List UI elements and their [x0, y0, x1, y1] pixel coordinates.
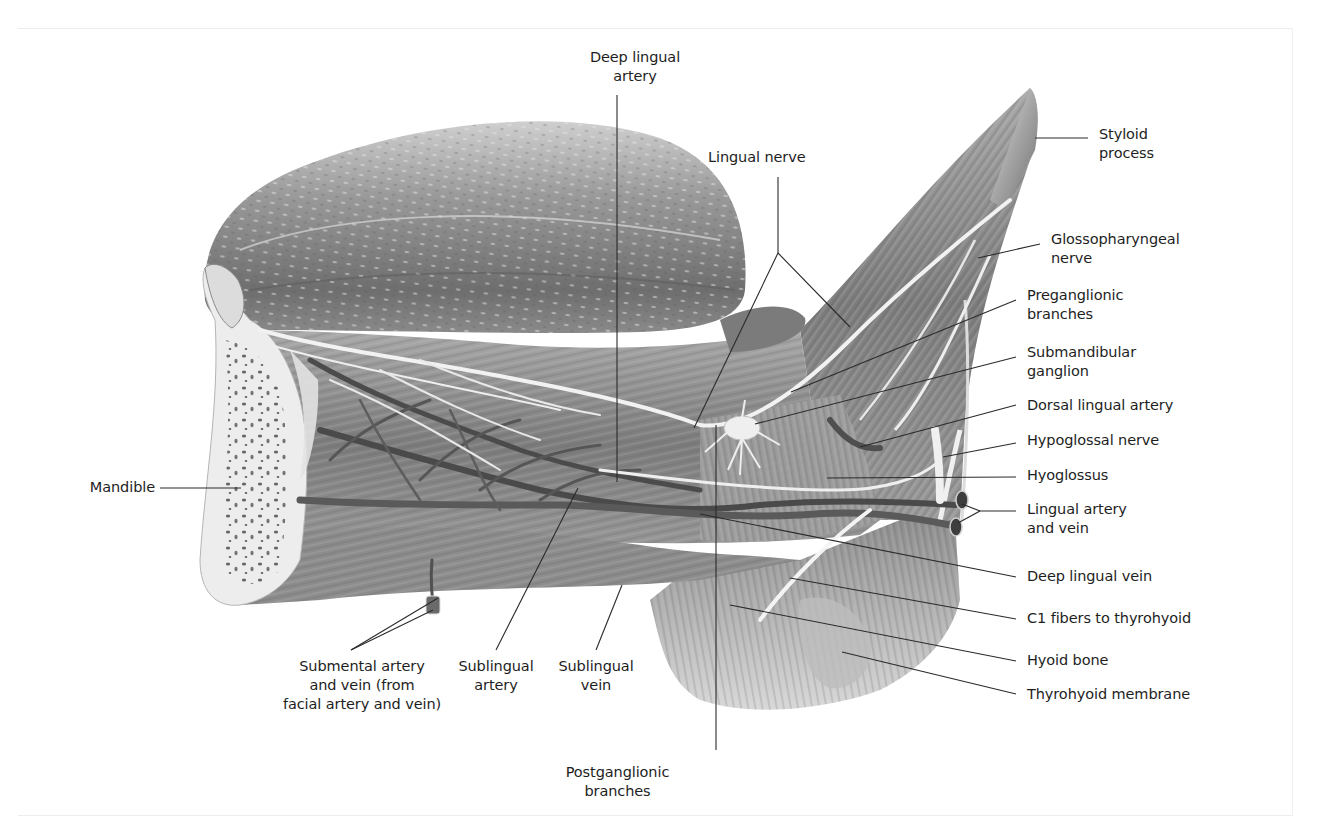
glossopharyngeal-nerve-leader [978, 244, 1040, 258]
lingual-nerve-leader-left [694, 253, 778, 428]
label-submandibular-ganglion: Submandibular ganglion [1027, 343, 1177, 381]
label-preganglionic-branches: Preganglionic branches [1027, 286, 1177, 324]
label-deep-lingual-vein: Deep lingual vein [1027, 567, 1227, 586]
thyrohyoid-membrane-leader [842, 652, 1016, 694]
label-submental-artery-and-vein: Submental artery and vein (from facial a… [262, 657, 462, 714]
label-hypoglossal-nerve: Hypoglossal nerve [1027, 431, 1227, 450]
label-postganglionic-branches: Postganglionic branches [545, 763, 690, 801]
dorsal-lingual-artery-leader [860, 405, 1016, 447]
hypoglossal-nerve-leader [943, 443, 1016, 457]
label-lingual-nerve: Lingual nerve [708, 148, 838, 167]
label-hyoid-bone: Hyoid bone [1027, 651, 1177, 670]
hyoglossus-leader [827, 477, 1016, 478]
label-lingual-artery-and-vein: Lingual artery and vein [1027, 500, 1177, 538]
c1-fibers-leader [790, 578, 1016, 619]
sublingual-artery-leader [496, 488, 578, 650]
lingual-nerve-leader-right [778, 253, 850, 327]
lingual-artery-vein-leader-c [958, 511, 980, 523]
sublingual-vein-leader [596, 585, 622, 650]
deep-lingual-vein-leader [700, 514, 1016, 577]
submental-leader-b [351, 598, 438, 650]
preganglionic-branches-leader [791, 300, 1016, 392]
label-deep-lingual-artery: Deep lingual artery [560, 48, 710, 86]
label-glossopharyngeal-nerve: Glossopharyngeal nerve [1051, 230, 1231, 268]
submental-leader-a [351, 610, 433, 650]
label-c1-fibers-to-thyrohyoid: C1 fibers to thyrohyoid [1027, 609, 1247, 628]
label-styloid-process: Styloid process [1099, 125, 1219, 163]
label-mandible: Mandible [60, 478, 155, 497]
label-hyoglossus: Hyoglossus [1027, 466, 1177, 485]
label-sublingual-artery: Sublingual artery [446, 657, 546, 695]
label-sublingual-vein: Sublingual vein [546, 657, 646, 695]
label-dorsal-lingual-artery: Dorsal lingual artery [1027, 396, 1227, 415]
hyoid-bone-leader [730, 605, 1016, 661]
lingual-artery-vein-leader-b [962, 504, 980, 511]
label-thyrohyoid-membrane: Thyrohyoid membrane [1027, 685, 1247, 704]
